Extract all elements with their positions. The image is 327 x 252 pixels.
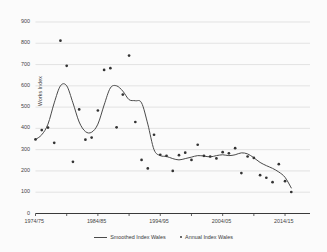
data-point — [115, 126, 118, 129]
data-point — [65, 64, 68, 67]
data-point — [165, 154, 168, 157]
annual-index-points-group — [34, 39, 292, 193]
data-point — [209, 155, 212, 158]
chart-container: Works Index 0100200300400500600700800900… — [0, 0, 327, 252]
data-point — [153, 133, 156, 136]
x-tick-label: 2004/05 — [212, 219, 232, 224]
x-tick-label: 2014/15 — [274, 219, 294, 224]
data-point — [178, 154, 181, 157]
data-point — [190, 159, 193, 162]
smoothed-index-line — [36, 84, 292, 188]
data-point — [184, 151, 187, 154]
y-tick-label: 500 — [8, 104, 30, 109]
data-point — [265, 176, 268, 179]
data-point — [109, 67, 112, 70]
x-tick-label: 1994/95 — [149, 219, 169, 224]
data-point — [253, 157, 256, 160]
smoothed-index-line-group — [36, 84, 292, 188]
data-point — [203, 154, 206, 157]
y-tick-label: 900 — [8, 19, 30, 24]
data-point — [121, 93, 124, 96]
dot-swatch-icon — [180, 236, 182, 238]
data-point — [40, 129, 43, 132]
data-point — [90, 136, 93, 139]
data-point — [271, 181, 274, 184]
data-point — [134, 121, 137, 124]
data-point — [290, 191, 293, 194]
x-tick-label: 1974/75 — [25, 219, 45, 224]
data-point — [53, 142, 56, 145]
data-point — [140, 159, 143, 162]
data-point — [72, 160, 75, 163]
data-point — [146, 167, 149, 170]
data-point — [234, 147, 237, 150]
y-tick-label: 400 — [8, 125, 30, 130]
legend-label-smoothed: Smoothed Index Wales — [110, 234, 166, 240]
x-tick-label: 1984/85 — [87, 219, 107, 224]
data-point — [246, 155, 249, 158]
legend-item-annual[interactable]: Annual Index Wales — [180, 234, 233, 240]
data-point — [215, 157, 218, 160]
data-point — [159, 153, 162, 156]
data-point — [103, 69, 106, 72]
y-tick-label: 0 — [8, 211, 30, 216]
y-tick-label: 300 — [8, 147, 30, 152]
data-point — [284, 180, 287, 183]
data-point — [171, 170, 174, 173]
y-tick-label: 100 — [8, 189, 30, 194]
data-point — [97, 109, 100, 112]
chart-plot-svg — [0, 0, 327, 252]
data-point — [59, 39, 62, 42]
data-point — [228, 152, 231, 155]
y-tick-label: 800 — [8, 40, 30, 45]
data-point — [128, 54, 131, 57]
line-swatch-icon — [94, 237, 107, 238]
legend-label-annual: Annual Index Wales — [185, 234, 233, 240]
y-tick-label: 200 — [8, 168, 30, 173]
chart-legend: Smoothed Index Wales Annual Index Wales — [0, 234, 327, 240]
data-point — [84, 138, 87, 141]
data-point — [78, 108, 81, 111]
data-point — [34, 138, 37, 141]
data-point — [47, 126, 50, 129]
y-tick-label: 700 — [8, 62, 30, 67]
y-tick-label: 600 — [8, 83, 30, 88]
data-point — [240, 172, 243, 175]
data-point — [221, 151, 224, 154]
data-point — [196, 143, 199, 146]
data-point — [277, 163, 280, 166]
data-point — [259, 174, 262, 177]
legend-item-smoothed[interactable]: Smoothed Index Wales — [94, 234, 166, 240]
